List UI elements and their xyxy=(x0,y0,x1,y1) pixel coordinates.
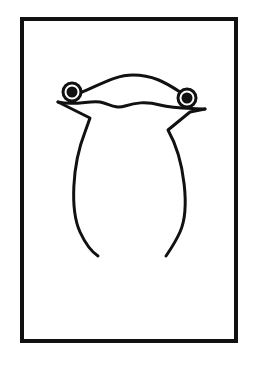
head-top-outline xyxy=(80,75,180,93)
right-eye-icon xyxy=(178,89,196,107)
left-body-outline xyxy=(58,102,98,256)
frog-illustration xyxy=(0,0,257,365)
right-body-outline xyxy=(166,109,205,256)
left-eye-icon xyxy=(63,83,81,101)
